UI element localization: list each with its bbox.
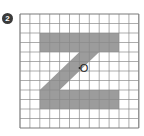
center-point: O xyxy=(79,62,89,74)
grid-figure: O xyxy=(0,0,144,136)
center-label-o: O xyxy=(80,62,89,74)
